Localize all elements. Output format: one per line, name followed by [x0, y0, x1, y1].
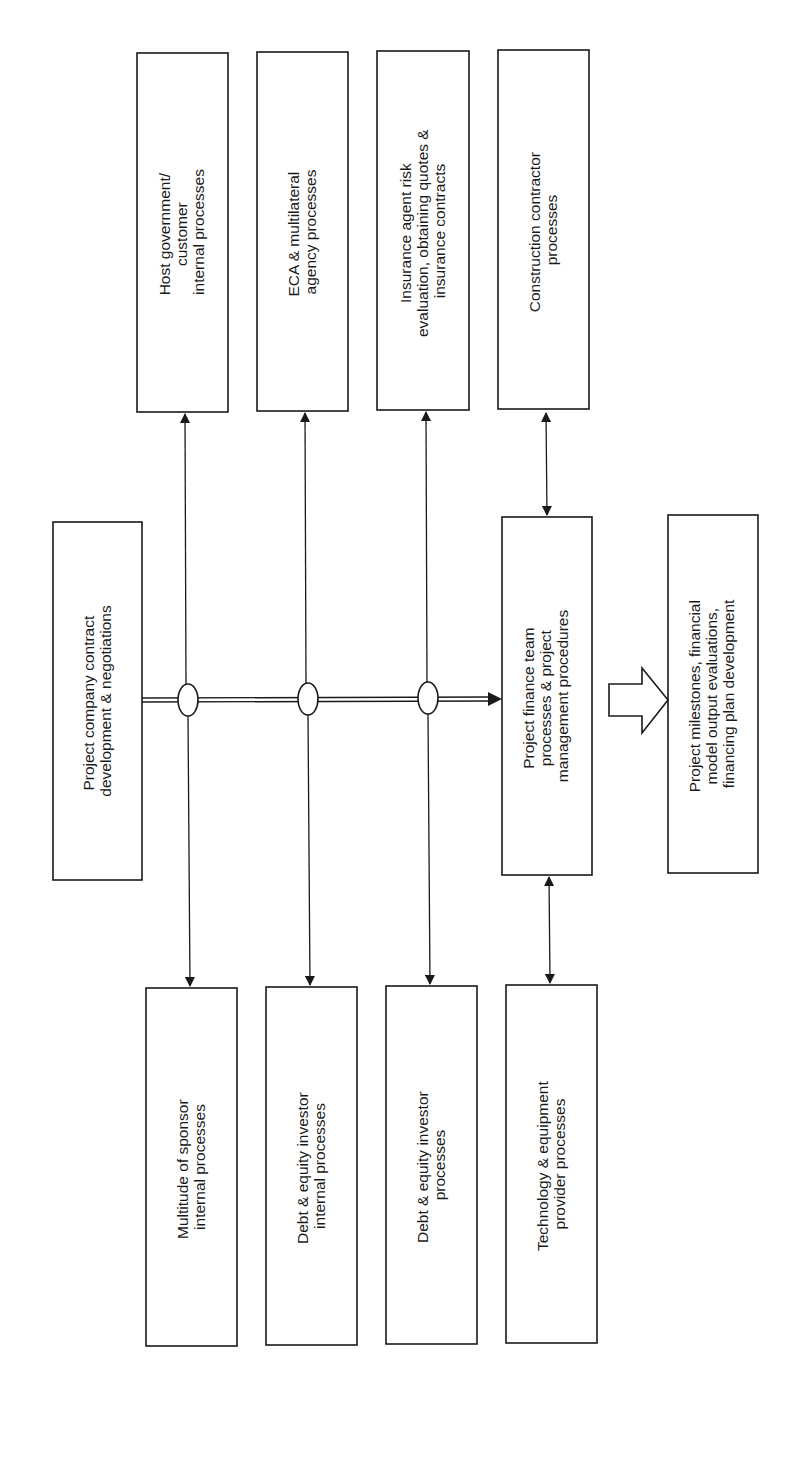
arrow-to-insurance [426, 412, 427, 682]
block-arrow-to-output [609, 668, 668, 733]
double-arrow-construction [546, 413, 547, 515]
arrow-to-eca [305, 413, 306, 683]
label-sponsor-internal: Multitude of sponsor internal processes [174, 1095, 208, 1239]
double-arrow-technology [549, 877, 550, 983]
label-project-finance-team: Project finance team processes & project… [520, 610, 571, 783]
arrow-to-debt-equity-internal [308, 715, 310, 985]
arrow-to-sponsor-internal [188, 716, 190, 986]
process-diagram: Host government/ customer internal proce… [0, 0, 787, 1483]
junction-ellipse-1 [178, 684, 198, 716]
label-debt-equity-internal: Debt & equity investor internal processe… [294, 1088, 328, 1244]
label-technology-equipment: Technology & equipment provider processe… [534, 1077, 568, 1251]
junction-ellipse-2 [298, 683, 318, 715]
label-eca-multilateral: ECA & multilateral agency processes [285, 167, 319, 296]
arrow-to-host-government [185, 414, 186, 684]
junction-ellipse-3 [418, 682, 438, 714]
arrow-to-debt-equity-processes [428, 714, 430, 984]
label-project-milestones: Project milestones, financial model outp… [686, 596, 737, 792]
label-project-company-contract: Project company contract development & n… [80, 605, 114, 797]
